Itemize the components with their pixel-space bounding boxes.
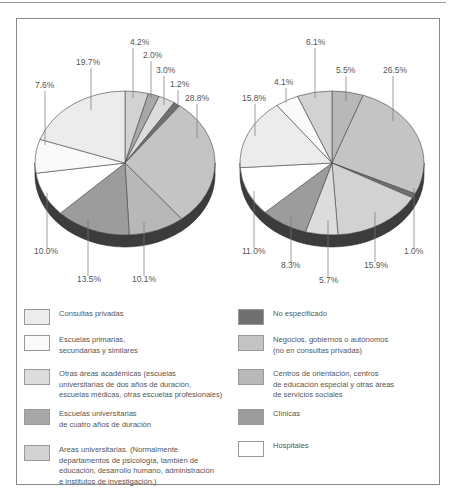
percentage-label: 19.7% [76, 57, 101, 67]
legend-swatch [24, 369, 50, 385]
legend-label: Otras áreas académicas (escuelas univers… [59, 369, 222, 401]
percentage-label: 4.1% [274, 77, 294, 87]
legend-swatch [238, 369, 264, 385]
legend-swatch [24, 409, 50, 425]
legend-label: Centros de orientación, centros de educa… [273, 369, 394, 401]
percentage-label: 3.0% [156, 65, 176, 75]
legend-swatch [238, 441, 264, 457]
legend-swatch [238, 335, 264, 351]
percentage-label: 13.5% [77, 274, 102, 284]
legend-item-negocios: Negocios, gobiernos o autónomos (no en c… [238, 335, 388, 356]
pie-charts: 4.2%2.0%3.0%1.2%28.8%19.7%7.6%10.0%13.5%… [0, 0, 452, 300]
pie-chart-left [35, 91, 215, 247]
legend-label: Escuelas primarias, secundarias y simila… [59, 335, 138, 356]
percentage-label: 6.1% [306, 37, 326, 47]
pie-chart-right [240, 91, 424, 247]
legend-swatch [24, 309, 50, 325]
percentage-label: 5.7% [319, 275, 339, 285]
percentage-label: 15.9% [364, 260, 389, 270]
legend-label: Escuelas universitarias de cuatro años d… [59, 409, 151, 430]
percentage-label: 28.8% [185, 93, 210, 103]
legend-item-primarias: Escuelas primarias, secundarias y simila… [24, 335, 138, 356]
legend-item-consultas: Consultas privadas [24, 309, 124, 325]
legend-label: No especificado [273, 309, 327, 320]
legend-item-noesp: No especificado [238, 309, 327, 325]
percentage-label: 4.2% [130, 37, 150, 47]
legend-swatch [238, 409, 264, 425]
percentage-label: 10.1% [132, 274, 157, 284]
percentage-label: 1.2% [170, 79, 190, 89]
legend-item-cuatro: Escuelas universitarias de cuatro años d… [24, 409, 151, 430]
legend-swatch [24, 335, 50, 351]
legend-item-otras: Otras áreas académicas (escuelas univers… [24, 369, 222, 401]
percentage-label: 15.8% [242, 93, 267, 103]
legend-label: Negocios, gobiernos o autónomos (no en c… [273, 335, 388, 356]
percentage-label: 11.0% [242, 246, 266, 256]
legend-item-clinicas: Clínicas [238, 409, 300, 425]
percentage-label: 8.3% [281, 260, 301, 270]
percentage-label: 10.0% [34, 246, 59, 256]
legend-item-hospitales: Hospitales [238, 441, 308, 457]
legend-item-areas: Areas universitarias. (Normalmente depar… [24, 445, 214, 487]
percentage-label: 2.0% [143, 50, 163, 60]
legend-label: Hospitales [273, 441, 308, 452]
legend-item-centros: Centros de orientación, centros de educa… [238, 369, 394, 401]
percentage-label: 7.6% [35, 80, 55, 90]
legend-swatch [24, 445, 50, 461]
percentage-label: 26.5% [383, 65, 408, 75]
legend-label: Clínicas [273, 409, 300, 420]
percentage-label: 1.0% [404, 246, 424, 256]
legend-label: Consultas privadas [59, 309, 124, 320]
legend-swatch [238, 309, 264, 325]
percentage-label: 5.5% [336, 65, 356, 75]
legend-label: Areas universitarias. (Normalmente depar… [59, 445, 214, 487]
